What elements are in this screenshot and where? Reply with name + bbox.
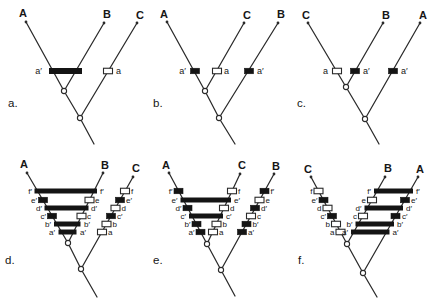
character-label: a	[108, 228, 113, 237]
branch-line	[219, 118, 235, 144]
tip-dot	[417, 176, 420, 179]
derived-state-mark	[328, 213, 337, 219]
taxon-label-C: C	[132, 162, 140, 174]
character-label: f′	[169, 187, 173, 196]
taxon-label-B: B	[384, 162, 392, 174]
primitive-state-mark	[323, 205, 332, 211]
tip-dot	[243, 22, 246, 25]
tree-node	[344, 241, 349, 246]
character-label: e′	[234, 196, 240, 205]
shared-derived-character-bar	[54, 222, 81, 227]
character-label: a	[219, 228, 224, 237]
shared-derived-character-bar	[189, 214, 223, 219]
taxon-label-B: B	[103, 8, 111, 20]
tree-node	[78, 266, 83, 271]
branch-line	[64, 91, 80, 118]
character-label: a	[224, 66, 229, 76]
taxon-label-A: A	[19, 7, 27, 19]
character-label: f	[131, 187, 134, 196]
character-label: a′	[363, 66, 370, 76]
character-label: a′	[179, 66, 186, 76]
panel-letter-e: e.	[153, 254, 163, 266]
primitive-state-mark	[247, 213, 256, 219]
character-label: f′	[100, 187, 104, 196]
derived-state-mark	[192, 221, 201, 227]
derived-state-mark	[107, 213, 116, 219]
branch-line	[365, 119, 379, 144]
tree-node	[204, 241, 209, 246]
primitive-state-mark	[314, 188, 323, 194]
figure-svg: ABCa′aa.ACBa′aa′b.CBAaa′a′c.ABCf′e′d′c′b…	[0, 0, 433, 306]
tip-dot	[136, 22, 139, 25]
tree-node	[343, 84, 348, 89]
shared-derived-character-bar	[181, 198, 232, 203]
branch-line	[308, 23, 346, 87]
character-label: a′	[80, 228, 86, 237]
character-label: b	[113, 220, 118, 229]
derived-state-mark	[238, 229, 247, 235]
tree-node	[202, 88, 207, 93]
tip-dot	[132, 176, 135, 179]
character-label: a′	[49, 228, 55, 237]
primitive-state-mark	[332, 221, 341, 227]
tree-node	[216, 115, 221, 120]
character-label: d′	[91, 204, 97, 213]
branch-line	[221, 270, 235, 296]
derived-state-mark	[196, 229, 205, 235]
character-label: a′	[248, 228, 254, 237]
panel-f: CBAfe′dc′baf′ed′cb′a′f′e′d′c′b′a′f.	[298, 162, 424, 297]
character-label: f′	[28, 187, 32, 196]
branch-line	[80, 118, 94, 144]
primitive-state-mark	[104, 68, 113, 74]
branch-line	[346, 87, 365, 119]
taxon-label-A: A	[416, 163, 424, 175]
primitive-state-mark	[111, 205, 120, 211]
shared-derived-character-bar	[59, 230, 77, 235]
tip-dot	[25, 21, 28, 24]
taxon-label-A: A	[160, 8, 168, 20]
character-label: a′	[189, 228, 195, 237]
character-label: a′	[393, 228, 399, 237]
primitive-state-mark	[98, 229, 107, 235]
branch-line	[64, 23, 104, 91]
taxon-label-C: C	[302, 9, 310, 21]
derived-state-mark	[319, 197, 328, 203]
tip-dot	[168, 172, 171, 175]
panel-letter-f: f.	[298, 254, 304, 266]
derived-state-mark	[242, 221, 251, 227]
character-label: a	[323, 66, 328, 76]
tree-node	[360, 270, 365, 275]
tip-dot	[277, 22, 280, 25]
taxon-label-A: A	[419, 9, 427, 21]
character-label: a′	[257, 66, 264, 76]
panel-letter-c: c.	[297, 97, 306, 109]
tree-node	[362, 116, 367, 121]
branch-line	[167, 22, 205, 91]
panel-c: CBAaa′a′c.	[297, 9, 427, 144]
panel-d: ABCf′e′d′c′b′a′f′ed′cb′a′fe′dc′bad.	[5, 158, 140, 297]
derived-state-mark	[174, 188, 183, 194]
derived-state-mark	[39, 197, 48, 203]
character-label: f′	[416, 187, 420, 196]
panel-e: ACBf′e′d′c′b′a′fe′dc′baf′ed′cb′a′e.	[153, 159, 280, 296]
taxon-label-A: A	[20, 158, 28, 170]
branch-line	[347, 244, 363, 273]
primitive-state-mark	[209, 229, 218, 235]
character-label: a	[116, 66, 121, 76]
shared-derived-character-bar	[374, 189, 413, 194]
panel-letter-d: d.	[5, 254, 15, 266]
tip-dot	[102, 172, 105, 175]
derived-state-mark	[48, 213, 57, 219]
derived-state-mark	[191, 68, 200, 74]
tip-dot	[307, 22, 310, 25]
character-label: a′	[401, 66, 408, 76]
derived-state-mark	[401, 197, 410, 203]
character-label: c	[353, 212, 357, 221]
tip-dot	[382, 22, 385, 25]
primitive-state-mark	[213, 68, 222, 74]
character-label: f	[238, 187, 241, 196]
derived-state-mark	[245, 68, 254, 74]
derived-state-mark	[391, 213, 400, 219]
character-label: a	[330, 228, 335, 237]
character-label: f′	[271, 187, 275, 196]
